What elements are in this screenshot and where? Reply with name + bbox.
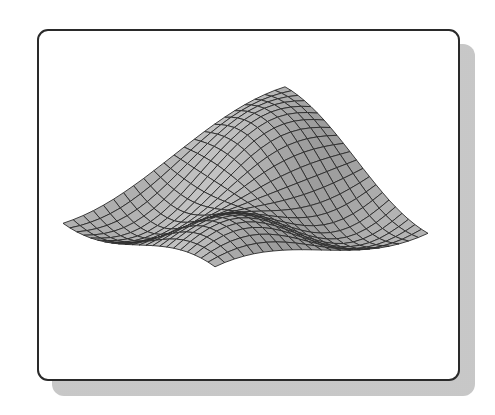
surface-plot [0,0,495,415]
surface-mesh [63,87,428,267]
